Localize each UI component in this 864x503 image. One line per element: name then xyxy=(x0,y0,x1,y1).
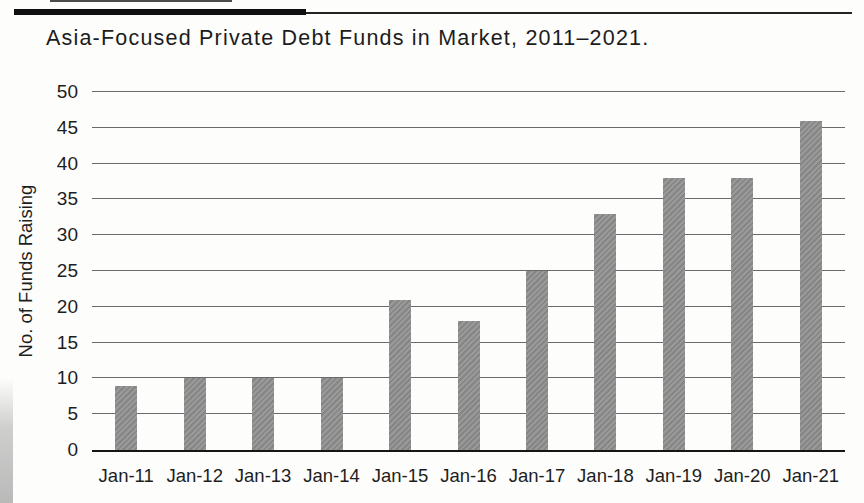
bar-Jan-16 xyxy=(458,321,480,450)
scanned-chart-figure: Asia-Focused Private Debt Funds in Marke… xyxy=(0,0,864,503)
x-tick-label-Jan-15: Jan-15 xyxy=(372,465,429,487)
bar-Jan-12 xyxy=(184,378,206,450)
bar-Jan-19 xyxy=(663,178,685,450)
x-tick-label-Jan-17: Jan-17 xyxy=(509,465,566,487)
y-tick-label-25: 25 xyxy=(30,260,78,282)
bar-Jan-20 xyxy=(731,178,753,450)
scan-artifact-top-line xyxy=(50,0,232,2)
x-tick-label-Jan-12: Jan-12 xyxy=(166,465,223,487)
bar-Jan-14 xyxy=(321,378,343,450)
plot-area xyxy=(92,92,845,452)
bar-Jan-18 xyxy=(594,214,616,450)
x-axis-tick-labels: Jan-11Jan-12Jan-13Jan-14Jan-15Jan-16Jan-… xyxy=(0,465,864,491)
y-tick-label-10: 10 xyxy=(30,367,78,389)
y-tick-label-45: 45 xyxy=(30,117,78,139)
gridline-40 xyxy=(92,163,845,164)
y-tick-label-40: 40 xyxy=(30,153,78,175)
bar-Jan-17 xyxy=(526,271,548,450)
bar-Jan-13 xyxy=(252,378,274,450)
y-tick-label-15: 15 xyxy=(30,332,78,354)
x-tick-label-Jan-21: Jan-21 xyxy=(782,465,839,487)
gridline-45 xyxy=(92,127,845,128)
chart-title: Asia-Focused Private Debt Funds in Marke… xyxy=(46,26,649,51)
gridline-50 xyxy=(92,91,845,92)
bar-Jan-15 xyxy=(389,300,411,450)
y-tick-label-50: 50 xyxy=(30,81,78,103)
x-tick-label-Jan-11: Jan-11 xyxy=(99,465,154,487)
x-tick-label-Jan-14: Jan-14 xyxy=(303,465,360,487)
title-rule-thick xyxy=(14,9,306,15)
scan-artifact-left-edge xyxy=(0,378,13,503)
x-tick-label-Jan-18: Jan-18 xyxy=(577,465,634,487)
bar-Jan-21 xyxy=(800,121,822,450)
x-tick-label-Jan-16: Jan-16 xyxy=(440,465,497,487)
y-tick-label-35: 35 xyxy=(30,188,78,210)
y-tick-label-20: 20 xyxy=(30,296,78,318)
x-tick-label-Jan-13: Jan-13 xyxy=(235,465,292,487)
x-tick-label-Jan-20: Jan-20 xyxy=(714,465,771,487)
x-tick-label-Jan-19: Jan-19 xyxy=(646,465,703,487)
bar-Jan-11 xyxy=(115,386,137,450)
y-tick-label-0: 0 xyxy=(30,439,78,461)
y-tick-label-5: 5 xyxy=(30,403,78,425)
y-tick-label-30: 30 xyxy=(30,224,78,246)
